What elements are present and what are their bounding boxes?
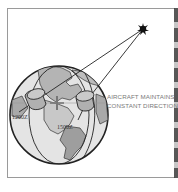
time-label-left: 1200Z [12, 114, 28, 120]
diagram-caption: AIRCRAFT MAINTAINS CONSTANT DIRECTION [107, 92, 178, 110]
caption-line-2: CONSTANT DIRECTION [107, 101, 178, 110]
star-icon [137, 23, 149, 35]
time-label-right: 1500Z [57, 124, 73, 130]
caption-line-1: AIRCRAFT MAINTAINS [107, 92, 178, 101]
